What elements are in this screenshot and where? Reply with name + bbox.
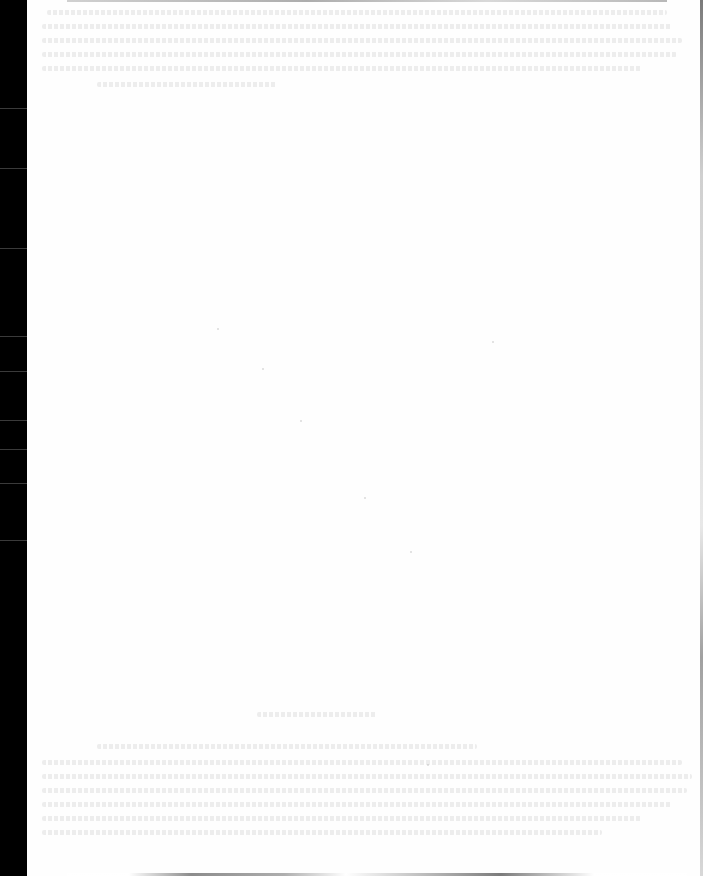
bleed-through-line (47, 10, 667, 15)
scan-streak (0, 248, 27, 249)
bleed-through-line (42, 830, 602, 835)
bleed-through-line (42, 816, 642, 821)
bleed-through-line (97, 82, 277, 87)
bleed-through-line (42, 52, 677, 57)
bleed-through-line (42, 24, 672, 29)
scan-speck (262, 368, 264, 370)
scan-streak (0, 168, 27, 169)
bleed-through-line (42, 760, 682, 765)
bleed-through-line (42, 66, 642, 71)
paper-sheet (27, 0, 703, 876)
scan-speck (427, 764, 429, 766)
bleed-through-line (42, 788, 687, 793)
scan-speck (410, 551, 412, 553)
scan-speck (300, 420, 302, 422)
bleed-through-line (257, 712, 377, 717)
scan-speck (364, 497, 366, 499)
bleed-through-line (42, 774, 692, 779)
bleed-through-line (42, 802, 672, 807)
page-top-edge (67, 0, 667, 2)
scan-streak (0, 420, 27, 421)
scan-speck (217, 328, 219, 330)
bleed-through-line (97, 744, 477, 749)
scan-streak (0, 371, 27, 372)
page-right-edge (700, 0, 703, 876)
scan-streak (0, 540, 27, 541)
scanned-page (0, 0, 706, 876)
scan-streak (0, 108, 27, 109)
scan-streak (0, 336, 27, 337)
scan-speck (492, 341, 494, 343)
scan-streak (0, 483, 27, 484)
scanner-border-left (0, 0, 27, 876)
scan-streak (0, 449, 27, 450)
bleed-through-line (42, 38, 682, 43)
